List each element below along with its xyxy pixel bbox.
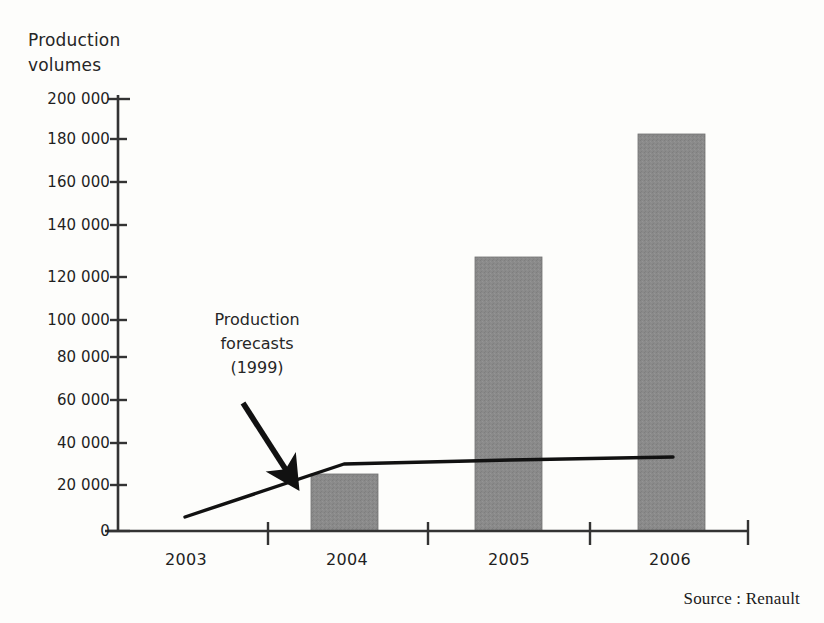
y-tick-label-180000: 180 000 [14,130,110,148]
source-note: Source : Renault [683,589,800,609]
bar-2004 [311,474,378,531]
y-tick-label-0: 0 [14,522,110,540]
bars-group [311,134,705,531]
y-tick-label-60000: 60 000 [14,391,110,409]
forecast-line [185,457,673,517]
forecast-annotation-line1: Production [214,310,299,329]
y-tick-label-200000: 200 000 [14,90,110,108]
x-tick-label-2004: 2004 [326,550,368,569]
y-tick-label-140000: 140 000 [14,216,110,234]
y-tick-label-40000: 40 000 [14,434,110,452]
bar-2006 [638,134,705,531]
y-tick-label-100000: 100 000 [14,311,110,329]
y-tick-label-120000: 120 000 [14,268,110,286]
plot-area [0,0,824,623]
forecast-annotation-line3: (1999) [230,358,283,377]
chart-figure: Productionvolumes [0,0,824,623]
bar-2005 [475,257,542,531]
x-tick-label-2005: 2005 [488,550,530,569]
x-tick-label-2003: 2003 [165,550,207,569]
y-tick-label-20000: 20 000 [14,476,110,494]
y-tick-labels: 200 000 180 000 160 000 140 000 120 000 … [0,0,110,623]
y-tick-label-160000: 160 000 [14,173,110,191]
y-tick-label-80000: 80 000 [14,348,110,366]
forecast-annotation-line2: forecasts [220,334,293,353]
x-tick-label-2006: 2006 [649,550,691,569]
forecast-annotation: Productionforecasts(1999) [182,308,332,380]
annotation-arrow [243,403,288,473]
